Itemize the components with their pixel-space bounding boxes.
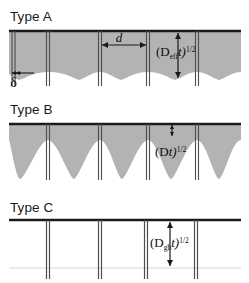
panel-b-shading xyxy=(9,124,241,179)
panel-b-diffusion-zone xyxy=(9,124,241,179)
panel-b-depth-open: (D xyxy=(155,144,169,159)
panel-a-depth-var: t) xyxy=(178,44,186,59)
panel-a-depth-open: (D xyxy=(156,44,170,59)
panel-b-depth-var: t) xyxy=(169,144,177,159)
diffusion-kinetics-figure: Type A d (Defft)1/2 xyxy=(0,0,249,283)
panel-a-depth-sup: 1/2 xyxy=(186,45,196,54)
panel-c-depth-open: (D xyxy=(150,235,164,250)
panel-b-depth-sup: 1/2 xyxy=(177,145,187,154)
panel-a-delta-label: δ xyxy=(10,75,17,90)
panel-c-depth-var: t) xyxy=(171,235,179,250)
panel-a-spacing-label: d xyxy=(116,30,123,45)
panel-a-diffusion-zone xyxy=(9,31,241,80)
panel-type-c: Type C (Dgbt)1/2 xyxy=(9,200,241,279)
panel-c-label: Type C xyxy=(10,200,54,215)
panel-type-a: Type A d (Defft)1/2 xyxy=(9,9,241,90)
panel-a-label: Type A xyxy=(10,9,52,24)
panel-b-label: Type B xyxy=(10,102,53,117)
panel-type-b: Type B (Dt)1/2 xyxy=(9,102,241,180)
panel-a-shading xyxy=(9,31,241,80)
panel-c-depth-sup: 1/2 xyxy=(179,236,189,245)
